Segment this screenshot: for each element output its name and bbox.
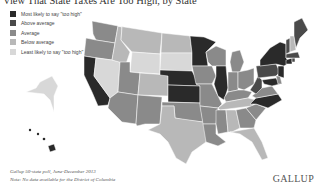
us-map (0, 0, 326, 189)
state-IA (192, 66, 216, 84)
state-AZ (108, 92, 138, 124)
state-SD (160, 53, 192, 71)
state-NY (260, 42, 290, 66)
state-AK (26, 76, 58, 112)
state-ND (161, 33, 192, 53)
state-WY (130, 52, 160, 74)
state-NM (136, 95, 162, 126)
data-note: Note: No data available for the District… (10, 177, 115, 182)
state-NJ (278, 66, 284, 78)
state-RI (292, 58, 295, 62)
gallup-logo: GALLUP (273, 173, 314, 184)
state-WA (92, 21, 118, 43)
state-OH (238, 68, 254, 90)
state-FL (230, 128, 268, 160)
state-KS (168, 85, 200, 103)
state-HI-island (29, 129, 31, 131)
state-AR (200, 106, 218, 124)
state-CO (138, 73, 168, 96)
state-HI-island (43, 138, 46, 141)
state-ME (294, 18, 308, 48)
state-HI-island (37, 133, 39, 135)
state-HI (48, 144, 56, 152)
source-note: Gallup 50-state poll, June-December 2013 (10, 169, 96, 174)
state-VT (286, 38, 290, 54)
state-MI (230, 50, 244, 72)
state-IN (228, 72, 238, 92)
